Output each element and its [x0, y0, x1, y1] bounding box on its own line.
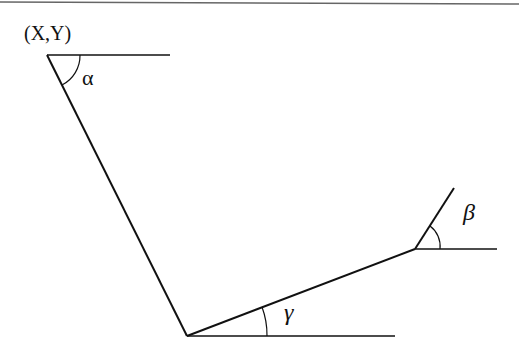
top-border — [0, 2, 519, 4]
link-3 — [415, 188, 454, 249]
link-1 — [47, 55, 187, 336]
beta-arc — [430, 226, 440, 249]
beta-label: β — [462, 199, 475, 225]
gamma-arc — [262, 307, 267, 336]
gamma-label: γ — [284, 299, 294, 325]
point-label: (X,Y) — [24, 22, 71, 45]
alpha-label: α — [82, 65, 94, 90]
link-2 — [187, 249, 415, 336]
alpha-arc — [62, 55, 80, 85]
linkage-diagram: (X,Y) α β γ — [0, 0, 519, 357]
